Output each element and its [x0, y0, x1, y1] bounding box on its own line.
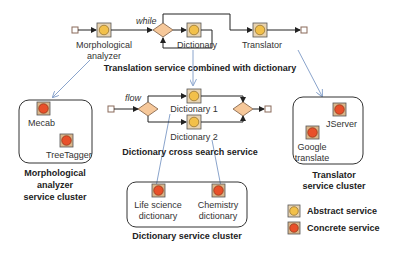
concrete-service-icon [333, 103, 346, 116]
treetagger-label: TreeTagger [46, 150, 92, 160]
diagram-canvas: while Morphological analyzer Dictionary … [0, 0, 397, 253]
end-node [265, 106, 271, 112]
abstract-service-icon [187, 115, 201, 129]
start-node [72, 27, 78, 33]
abstract-service-legend-icon [288, 205, 300, 217]
middle-flow-caption: Dictionary cross search service [122, 147, 258, 157]
while-label: while [136, 16, 157, 26]
translator-cluster-caption-2: service cluster [302, 181, 366, 191]
legend-abstract-label: Abstract service [307, 206, 377, 216]
concrete-service-legend-icon [288, 222, 300, 234]
abstract-service-icon [187, 89, 201, 103]
dict1-label: Dictionary 1 [170, 104, 218, 114]
flow-label: flow [125, 93, 142, 103]
start-node [108, 106, 114, 112]
middle-flow: flow Dictionary 1 Dictionary 2 Dictionar… [108, 89, 271, 157]
morph-cluster-caption-2: analyzer [37, 180, 74, 190]
chemistry-label-2: dictionary [199, 211, 238, 221]
abstract-service-icon [97, 23, 111, 37]
translator-cluster: JServer Google translate Translator serv… [293, 97, 366, 191]
chemistry-label: Chemistry [198, 200, 239, 210]
legend-concrete-label: Concrete service [307, 223, 380, 233]
morph-cluster: Mecab TreeTagger Morphological analyzer … [19, 100, 92, 202]
concrete-service-icon [37, 102, 50, 115]
morph-label: Morphological [76, 40, 132, 50]
dictionary-label: Dictionary [177, 40, 218, 50]
morph-cluster-caption-3: service cluster [23, 192, 87, 202]
dict2-label: Dictionary 2 [170, 132, 218, 142]
life-science-label: Life science [134, 200, 182, 210]
translate-label: translate [295, 153, 330, 163]
morph-label-2: analyzer [87, 51, 121, 61]
concrete-service-icon [212, 184, 225, 197]
concrete-service-icon [306, 126, 319, 139]
mecab-label: Mecab [28, 118, 55, 128]
concrete-service-icon [152, 184, 165, 197]
life-science-label-2: dictionary [139, 211, 178, 221]
dictionary-cluster-caption: Dictionary service cluster [132, 231, 242, 241]
top-flow-caption: Translation service combined with dictio… [104, 63, 297, 73]
google-label: Google [297, 142, 326, 152]
top-flow: while Morphological analyzer Dictionary … [72, 14, 307, 73]
morph-cluster-caption-1: Morphological [24, 168, 86, 178]
translator-label: Translator [242, 40, 282, 50]
dictionary-cluster: Life science dictionary Chemistry dictio… [127, 182, 247, 241]
legend: Abstract service Concrete service [288, 205, 380, 234]
flow-gateway [138, 102, 158, 116]
jserver-label: JServer [326, 119, 357, 129]
abstract-service-icon [253, 23, 267, 37]
end-node [301, 27, 307, 33]
join-gateway [233, 102, 253, 116]
abstract-service-icon [187, 23, 201, 37]
translator-cluster-caption-1: Translator [312, 170, 356, 180]
concrete-service-icon [60, 134, 73, 147]
